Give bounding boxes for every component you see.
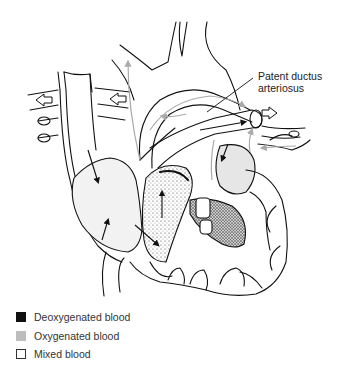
mixed-swatch-icon <box>16 349 26 359</box>
right-atrium <box>72 158 142 252</box>
hollow-arrow-left-1 <box>36 94 52 106</box>
deoxygenated-swatch-icon <box>16 312 26 322</box>
callout-line-2: arteriosus <box>258 82 322 94</box>
hollow-arrow-left-2 <box>110 93 126 105</box>
heart-diagram: Patent ductus arteriosus <box>0 0 343 300</box>
legend-item-oxygenated: Oxygenated blood <box>16 327 130 346</box>
oxygenated-swatch-icon <box>16 331 26 341</box>
legend-item-deoxygenated: Deoxygenated blood <box>16 308 130 327</box>
legend-item-mixed: Mixed blood <box>16 345 130 364</box>
left-ventricle <box>190 198 246 247</box>
legend-label: Oxygenated blood <box>34 330 119 342</box>
heart-illustration <box>0 0 343 300</box>
callout-leader-line <box>207 78 253 112</box>
flow-arrows-hollow <box>36 93 277 119</box>
legend-label: Mixed blood <box>34 348 91 360</box>
right-ventricle <box>142 166 192 262</box>
legend: Deoxygenated blood Oxygenated blood Mixe… <box>16 308 130 364</box>
callout-line-1: Patent ductus <box>258 70 322 82</box>
hollow-arrow-right <box>262 107 277 119</box>
legend-label: Deoxygenated blood <box>34 311 130 323</box>
patent-ductus-label: Patent ductus arteriosus <box>258 70 322 94</box>
left-atrium <box>216 145 255 194</box>
